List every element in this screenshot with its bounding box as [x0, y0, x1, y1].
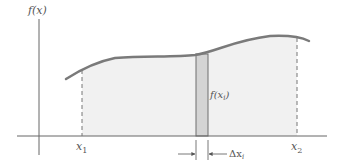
x2-label: x2: [291, 140, 302, 155]
delta-x-label: Δxi: [229, 148, 244, 161]
y-axis-label: f(x): [27, 4, 47, 17]
strip-rectangle: [196, 54, 208, 136]
riemann-strip-diagram: f(x) x1 x2 f(xi) Δxi: [0, 0, 346, 168]
area-under-curve: [82, 36, 297, 136]
x1-label: x1: [76, 140, 87, 155]
